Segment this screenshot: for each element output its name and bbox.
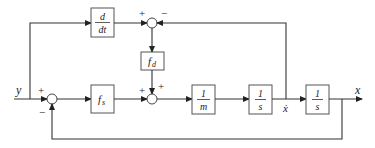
- derivative-den: dt: [99, 24, 107, 35]
- fd-block: f d: [141, 52, 164, 70]
- sum-damping-junction: [147, 18, 157, 28]
- integrator-2-block: 1 s: [306, 85, 329, 114]
- sum-input-plus: +: [38, 84, 44, 96]
- inverse-mass-block: 1 m: [192, 85, 215, 114]
- integrator-2-num: 1: [315, 88, 320, 99]
- integrator-1-num: 1: [258, 88, 263, 99]
- derivative-block: d dt: [91, 8, 114, 37]
- output-label: x: [354, 83, 361, 97]
- inverse-mass-den: m: [200, 101, 207, 112]
- sum-force-plus-left: +: [139, 84, 145, 96]
- sum-damping-plus: +: [139, 7, 145, 19]
- fs-subscript: s: [102, 98, 105, 107]
- sum-damping-minus: −: [161, 7, 167, 19]
- inverse-mass-num: 1: [201, 88, 206, 99]
- sum-input-junction: [47, 94, 57, 104]
- sum-force-junction: [147, 94, 157, 104]
- velocity-label: ẋ: [282, 102, 288, 114]
- fs-block: f s: [91, 85, 114, 113]
- block-diagram: y d dt + − f d + − f s + +: [0, 0, 375, 148]
- sum-force-plus-top: +: [158, 80, 164, 92]
- integrator-1-block: 1 s: [249, 85, 272, 114]
- integrator-2-den: s: [316, 101, 320, 112]
- integrator-1-den: s: [259, 101, 263, 112]
- sum-input-minus: −: [39, 106, 45, 118]
- input-label: y: [15, 83, 22, 97]
